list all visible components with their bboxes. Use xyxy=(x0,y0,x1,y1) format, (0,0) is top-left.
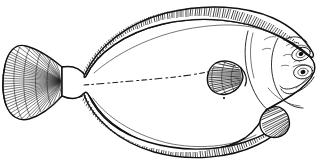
flatfish-illustration: Flatfish (flounder) lateral view line il… xyxy=(0,0,325,163)
pectoral-fin-spot xyxy=(223,97,225,99)
illustration-canvas: Flatfish (flounder) lateral view line il… xyxy=(0,0,325,163)
